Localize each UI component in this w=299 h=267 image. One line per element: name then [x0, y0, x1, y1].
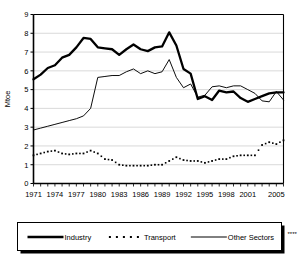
series-point-transport — [179, 158, 181, 160]
series-point-transport — [229, 157, 231, 159]
legend-label-industry: Industry — [65, 233, 92, 242]
series-point-transport — [279, 141, 281, 143]
series-point-transport — [47, 151, 49, 153]
legend-swatch-transport — [116, 236, 118, 238]
y-tick-label: 8 — [24, 29, 28, 38]
x-tick-label: 1980 — [89, 190, 106, 199]
x-tick-label: 1989 — [154, 190, 171, 199]
series-point-transport — [261, 144, 263, 146]
legend-swatch-transport — [109, 236, 111, 238]
x-tick-label: 1995 — [197, 190, 214, 199]
series-point-transport — [122, 164, 124, 166]
series-point-transport — [147, 165, 149, 167]
series-point-transport — [115, 162, 117, 164]
series-point-transport — [54, 150, 56, 152]
series-point-transport — [158, 164, 160, 166]
series-point-transport — [193, 160, 195, 162]
series-point-transport — [275, 143, 277, 145]
series-point-transport — [43, 152, 45, 154]
series-point-transport — [222, 158, 224, 160]
series-point-transport — [129, 165, 131, 167]
y-tick-label: 4 — [24, 104, 28, 113]
series-point-transport — [75, 153, 77, 155]
y-tick-label: 3 — [24, 123, 28, 132]
series-point-transport — [211, 160, 213, 162]
series-point-transport — [283, 139, 285, 141]
series-point-transport — [61, 153, 63, 155]
series-point-transport — [186, 160, 188, 162]
series-point-transport — [90, 150, 92, 152]
y-tick-label: 1 — [24, 161, 28, 170]
series-point-transport — [175, 156, 177, 158]
x-tick-label: 1998 — [218, 190, 235, 199]
series-point-transport — [218, 158, 220, 160]
x-tick-label: 1992 — [175, 190, 192, 199]
series-point-transport — [272, 142, 274, 144]
series-point-transport — [125, 165, 127, 167]
series-point-transport — [190, 160, 192, 162]
series-point-transport — [243, 155, 245, 157]
chart-legend: IndustryTransportOther Sectors**** — [18, 223, 298, 254]
series-point-transport — [251, 155, 253, 157]
legend-swatch-transport — [123, 236, 125, 238]
x-tick-label: 2005 — [268, 190, 285, 199]
series-point-transport — [254, 154, 256, 156]
x-tick-label: 1983 — [111, 190, 128, 199]
series-point-transport — [236, 155, 238, 157]
series-point-transport — [58, 151, 60, 153]
series-point-transport — [83, 153, 85, 155]
series-point-transport — [36, 154, 38, 156]
series-point-transport — [108, 159, 110, 161]
series-point-transport — [136, 165, 138, 167]
series-point-transport — [65, 153, 67, 155]
y-tick-label: 5 — [24, 85, 28, 94]
series-point-transport — [104, 158, 106, 160]
y-axis-label: Mtoe — [3, 91, 12, 108]
series-point-transport — [233, 155, 235, 157]
series-point-transport — [151, 164, 153, 166]
chart-container: 0123456789 19711974197719801983198619891… — [0, 0, 299, 267]
series-point-transport — [183, 159, 185, 161]
x-tick-label: 2001 — [239, 190, 256, 199]
energy-consumption-line-chart: 0123456789 19711974197719801983198619891… — [0, 0, 299, 267]
y-tick-label: 7 — [24, 48, 28, 57]
legend-label-other-sectors: Other Sectors — [228, 233, 275, 242]
series-point-transport — [154, 164, 156, 166]
x-tick-label: 1986 — [132, 190, 149, 199]
series-point-transport — [68, 153, 70, 155]
x-tick-label: 1971 — [25, 190, 42, 199]
series-point-transport — [133, 165, 135, 167]
series-point-transport — [97, 153, 99, 155]
series-point-transport — [165, 162, 167, 164]
series-point-transport — [111, 159, 113, 161]
series-point-transport — [101, 155, 103, 157]
legend-swatch-transport — [137, 236, 139, 238]
legend-footnote-marker: **** — [288, 231, 298, 237]
series-point-transport — [33, 154, 35, 156]
series-point-transport — [225, 158, 227, 160]
series-point-transport — [265, 143, 267, 145]
series-point-transport — [268, 141, 270, 143]
y-tick-label: 9 — [24, 10, 28, 19]
series-point-transport — [51, 150, 53, 152]
series-point-transport — [118, 164, 120, 166]
series-point-transport — [143, 165, 145, 167]
y-tick-label: 6 — [24, 67, 28, 76]
series-point-transport — [201, 161, 203, 163]
y-tick-label: 2 — [24, 142, 28, 151]
series-point-transport — [140, 165, 142, 167]
legend-label-transport: Transport — [144, 233, 177, 242]
y-tick-label: 0 — [24, 179, 28, 188]
series-point-transport — [161, 164, 163, 166]
series-point-transport — [40, 153, 42, 155]
series-point-transport — [72, 153, 74, 155]
series-point-transport — [93, 151, 95, 153]
legend-swatch-transport — [130, 236, 132, 238]
series-point-transport — [79, 153, 81, 155]
series-point-transport — [240, 154, 242, 156]
series-point-transport — [258, 149, 260, 151]
series-point-transport — [172, 158, 174, 160]
series-point-transport — [204, 162, 206, 164]
x-tick-label: 1974 — [47, 190, 64, 199]
x-tick-label: 1977 — [68, 190, 85, 199]
